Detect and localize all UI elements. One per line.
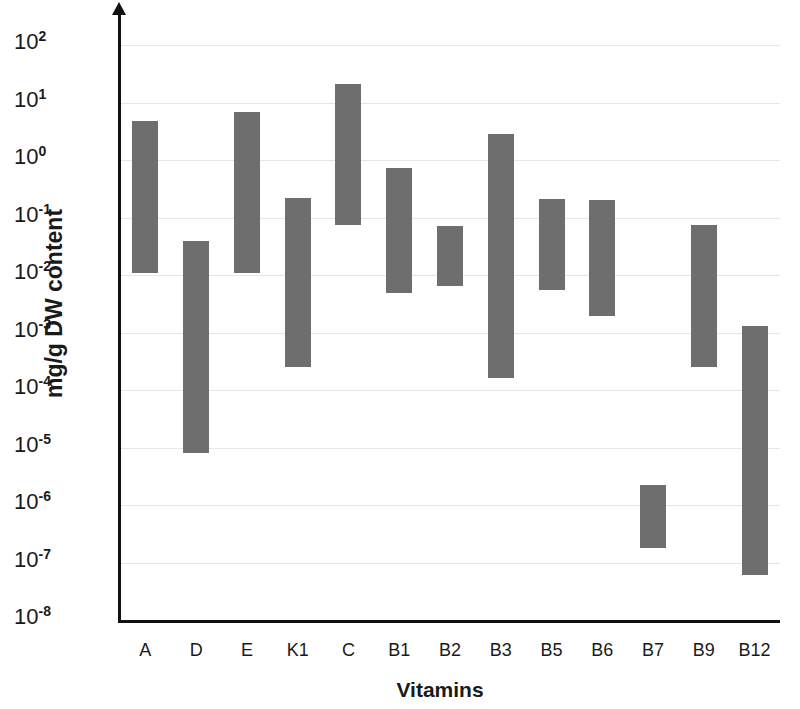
- range-bar: [691, 225, 717, 367]
- gridline: [120, 218, 780, 219]
- range-bar: [132, 121, 158, 273]
- y-axis-line: [118, 12, 121, 622]
- range-bar: [640, 485, 666, 548]
- range-bar: [285, 198, 311, 367]
- x-axis-tick-label: B1: [388, 640, 410, 661]
- plot-area: [120, 20, 780, 620]
- x-axis-tick-label: B7: [642, 640, 664, 661]
- x-axis-tick-label: K1: [287, 640, 309, 661]
- range-bar: [589, 200, 615, 316]
- range-bar: [386, 168, 412, 293]
- range-bar: [742, 326, 768, 575]
- x-axis-tick-label: B5: [541, 640, 563, 661]
- range-bar: [183, 241, 209, 453]
- x-axis-tick-label: B12: [739, 640, 771, 661]
- gridline: [120, 390, 780, 391]
- x-axis-tick-label: E: [241, 640, 253, 661]
- range-bar: [437, 226, 463, 286]
- range-bar: [539, 199, 565, 290]
- x-axis-tick-label: C: [342, 640, 355, 661]
- x-axis-tick-label: B3: [490, 640, 512, 661]
- x-axis-tick-label: A: [139, 640, 151, 661]
- gridline: [120, 448, 780, 449]
- gridline: [120, 563, 780, 564]
- gridline: [120, 333, 780, 334]
- x-axis-line: [118, 620, 780, 623]
- x-axis-tick-label: B6: [591, 640, 613, 661]
- range-bar: [335, 84, 361, 225]
- range-bar: [234, 112, 260, 272]
- gridline: [120, 103, 780, 104]
- x-axis-title: Vitamins: [120, 678, 760, 702]
- gridline: [120, 45, 780, 46]
- gridline: [120, 160, 780, 161]
- x-axis-tick-label: B2: [439, 640, 461, 661]
- vitamin-content-range-chart: mg/g DW content 10210110010-110-210-310-…: [0, 0, 800, 709]
- gridline: [120, 505, 780, 506]
- y-axis-arrow-icon: [112, 2, 126, 15]
- x-axis-tick-label: D: [190, 640, 203, 661]
- range-bar: [488, 134, 514, 378]
- x-axis-tick-label: B9: [693, 640, 715, 661]
